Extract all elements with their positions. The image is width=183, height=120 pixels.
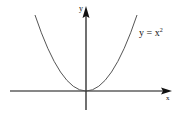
x-axis-label: x — [166, 94, 170, 102]
parabola-diagram: y x y = x2 — [0, 0, 183, 120]
curve-label: y = x2 — [139, 27, 163, 38]
curve-label-exponent: 2 — [160, 27, 163, 33]
curve-label-base: y = x — [139, 27, 160, 38]
y-axis-label: y — [79, 4, 83, 13]
